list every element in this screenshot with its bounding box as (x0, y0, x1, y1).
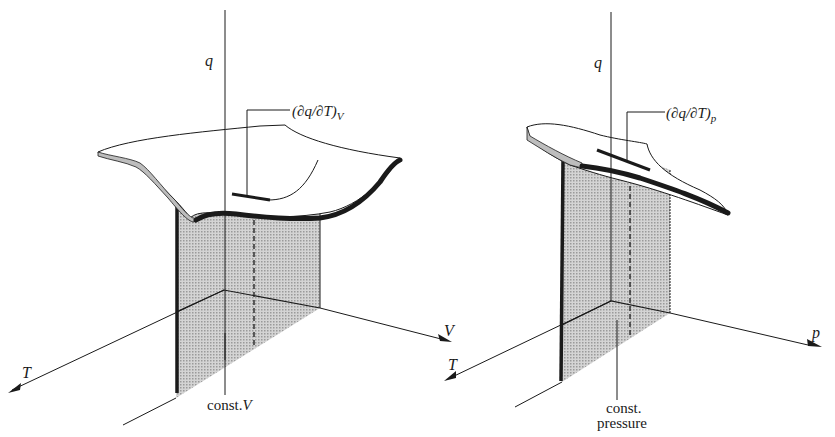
panel-const-volume: q (∂q/∂T)V V T const.V (8, 10, 456, 425)
plane-label-const-v: const.V (207, 397, 253, 413)
plane-label-const-pressure-1: const. (606, 400, 641, 416)
p-axis-label: p (811, 324, 820, 342)
p-axis (670, 313, 808, 345)
plane-label-const-pressure-2: pressure (597, 415, 647, 431)
q-axis-label: q (205, 52, 213, 70)
q-axis-label-right: q (594, 54, 602, 72)
derivative-label-p: (∂q/∂T)p (666, 105, 717, 124)
derivative-label-v: (∂q/∂T)V (292, 103, 345, 122)
panel-const-pressure: q (∂q/∂T)p p T const. pressure (415, 12, 822, 431)
v-axis (320, 308, 445, 340)
t-axis-label-left: T (22, 364, 32, 381)
t-axis-label-right: T (448, 356, 458, 373)
heat-capacity-diagram: q (∂q/∂T)V V T const.V (0, 0, 835, 437)
v-axis-label: V (444, 322, 456, 339)
